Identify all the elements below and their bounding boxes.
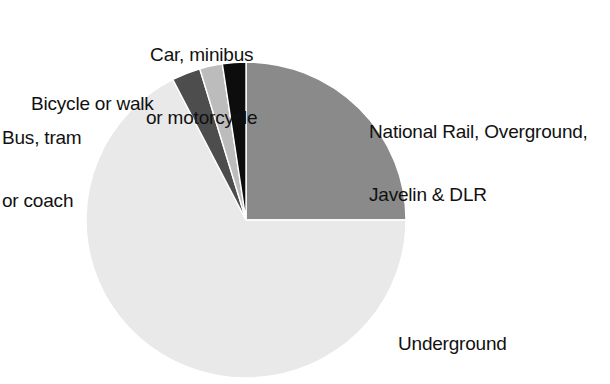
pie-chart: Car, minibus or motorcycle Bicycle or wa… <box>0 0 610 384</box>
slice-label-rail-line1: National Rail, Overground, <box>369 121 588 142</box>
slice-label-rail: National Rail, Overground, Javelin & DLR <box>369 79 588 247</box>
slice-label-bus: Bus, tram or coach <box>2 85 82 253</box>
slice-label-car: Car, minibus or motorcycle <box>146 2 257 170</box>
slice-label-underground-line1: Underground <box>398 333 507 354</box>
slice-label-bus-line2: or coach <box>2 190 82 211</box>
slice-label-bus-line1: Bus, tram <box>2 127 82 148</box>
slice-label-rail-line2: Javelin & DLR <box>369 184 588 205</box>
slice-label-underground: Underground <box>398 291 507 384</box>
slice-label-car-line2: or motorcycle <box>146 107 257 128</box>
slice-label-car-line1: Car, minibus <box>146 44 257 65</box>
